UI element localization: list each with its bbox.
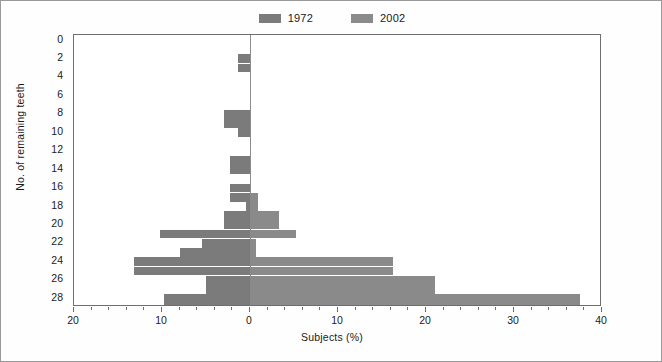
x-tick-minor — [179, 307, 180, 310]
y-tick-label: 10 — [51, 125, 63, 137]
x-tick-minor — [355, 307, 356, 310]
figure-frame: 1972 2002 0246810121416182022242628 No. … — [0, 0, 662, 362]
x-tick-minor — [143, 307, 144, 310]
bar — [134, 257, 250, 266]
x-tick-minor — [478, 307, 479, 310]
x-tick-minor — [443, 307, 444, 310]
bar — [250, 230, 296, 239]
bar — [230, 156, 250, 165]
y-tick-label: 28 — [51, 291, 63, 303]
x-tick-minor — [460, 307, 461, 310]
x-tick-minor — [302, 307, 303, 310]
y-tick-label: 16 — [51, 180, 63, 192]
x-tick-label: 30 — [507, 314, 519, 326]
x-tick-minor — [390, 307, 391, 310]
x-tick-label: 10 — [155, 314, 167, 326]
bar — [230, 184, 250, 193]
legend-label-2002: 2002 — [380, 13, 405, 24]
bar — [164, 294, 250, 303]
bar — [206, 285, 250, 294]
x-tick-major — [425, 307, 426, 312]
x-tick-major — [337, 307, 338, 312]
bar — [250, 239, 256, 248]
legend-swatch-2002 — [351, 14, 373, 23]
x-tick-minor — [267, 307, 268, 310]
x-tick-minor — [583, 307, 584, 310]
y-tick-label: 14 — [51, 162, 63, 174]
x-tick-label: 20 — [419, 314, 431, 326]
bar — [224, 119, 250, 128]
legend-item-2002: 2002 — [351, 13, 405, 24]
x-tick-major — [601, 307, 602, 312]
bar — [238, 54, 250, 63]
bar — [134, 267, 250, 276]
x-tick-label: 10 — [331, 314, 343, 326]
legend-item-1972: 1972 — [259, 13, 313, 24]
legend-swatch-1972 — [259, 14, 281, 23]
x-tick-minor — [91, 307, 92, 310]
x-tick-major — [249, 307, 250, 312]
x-tick-minor — [548, 307, 549, 310]
bar — [180, 248, 250, 257]
bar — [250, 276, 435, 285]
bar — [250, 248, 256, 257]
y-axis: 0246810121416182022242628 — [1, 34, 69, 306]
x-tick-major — [73, 307, 74, 312]
x-tick-label: 20 — [67, 314, 79, 326]
y-tick-label: 0 — [57, 33, 63, 45]
y-tick-label: 2 — [57, 51, 63, 63]
bar — [250, 220, 279, 229]
bar — [202, 239, 250, 248]
bar — [250, 193, 258, 202]
x-tick-label: 40 — [595, 314, 607, 326]
y-tick-label: 12 — [51, 143, 63, 155]
bar — [250, 211, 279, 220]
x-tick-minor — [531, 307, 532, 310]
bar — [224, 220, 250, 229]
x-tick-minor — [407, 307, 408, 310]
x-tick-minor — [108, 307, 109, 310]
x-tick-minor — [214, 307, 215, 310]
y-tick-label: 26 — [51, 272, 63, 284]
legend: 1972 2002 — [1, 9, 662, 27]
x-tick-minor — [372, 307, 373, 310]
x-tick-major — [161, 307, 162, 312]
x-axis-title: Subjects (%) — [1, 331, 662, 343]
bar — [250, 267, 393, 276]
plot-area — [73, 34, 601, 306]
x-tick-minor — [566, 307, 567, 310]
bar — [238, 128, 250, 137]
x-tick-minor — [196, 307, 197, 310]
x-tick-minor — [284, 307, 285, 310]
x-tick-minor — [495, 307, 496, 310]
legend-label-1972: 1972 — [288, 13, 313, 24]
x-tick-minor — [231, 307, 232, 310]
y-tick-label: 8 — [57, 106, 63, 118]
bar — [224, 110, 250, 119]
y-axis-title: No. of remaining teeth — [14, 32, 26, 242]
bar — [250, 285, 435, 294]
x-tick-minor — [126, 307, 127, 310]
y-tick-label: 6 — [57, 88, 63, 100]
y-tick-label: 24 — [51, 254, 63, 266]
bar — [224, 211, 250, 220]
bar — [250, 303, 580, 306]
bar — [206, 276, 250, 285]
y-tick-label: 18 — [51, 199, 63, 211]
bar — [250, 257, 393, 266]
bar — [230, 193, 250, 202]
bar — [160, 230, 250, 239]
y-tick-label: 4 — [57, 69, 63, 81]
y-tick-label: 22 — [51, 235, 63, 247]
x-axis-ticks — [73, 307, 601, 313]
bar — [164, 303, 250, 306]
bar — [238, 64, 250, 73]
bar — [250, 202, 258, 211]
bar — [230, 165, 250, 174]
x-tick-label: 0 — [246, 314, 252, 326]
x-tick-major — [513, 307, 514, 312]
x-axis-labels: 2010010203040 — [73, 314, 601, 328]
bar — [250, 294, 580, 303]
x-tick-minor — [319, 307, 320, 310]
y-tick-label: 20 — [51, 217, 63, 229]
